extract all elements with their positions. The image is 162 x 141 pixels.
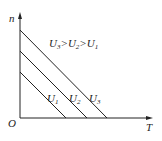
x-axis-arrow-icon xyxy=(146,116,153,120)
line-u2 xyxy=(20,51,87,118)
label-u1: U1 xyxy=(47,92,58,106)
origin-label: O xyxy=(8,117,16,129)
label-u2: U2 xyxy=(69,92,81,106)
diagram-canvas: n O T U3>U2>U1 U1 U2 U3 xyxy=(0,0,162,141)
label-u3: U3 xyxy=(89,92,101,106)
line-u1 xyxy=(20,72,66,118)
x-axis-label: T xyxy=(146,121,153,133)
y-axis-label: n xyxy=(9,12,15,24)
relation-text: U3>U2>U1 xyxy=(49,37,98,51)
y-axis-arrow-icon xyxy=(18,12,22,19)
